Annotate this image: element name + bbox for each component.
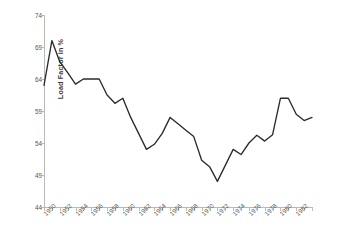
series-line-load-factor	[44, 41, 312, 182]
line-chart: Load Factor in % 44495459646974 19501952…	[0, 0, 338, 246]
series-layer	[0, 0, 338, 246]
